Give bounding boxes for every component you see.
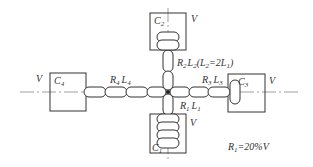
core-c2-coil	[157, 32, 179, 50]
voltage-label-c3: V	[269, 75, 277, 86]
pipe-network-diagram: V C4 C2 V C3 V C1 V R4L4 R3L3 R2L2(L2=2L…	[0, 0, 313, 167]
branch-4-coil	[84, 87, 166, 97]
voltage-label-c2: V	[191, 13, 199, 24]
branch-1-coil	[163, 94, 173, 115]
branch-label-r4l4: R4L4	[109, 74, 131, 87]
core-label-c2: C2	[154, 15, 165, 28]
core-c1-coil	[157, 114, 179, 148]
branch-3-coil	[170, 87, 230, 97]
branch-label-r3l3: R3L3	[201, 74, 223, 87]
core-label-c4: C4	[54, 75, 65, 88]
voltage-label-c4: V	[36, 73, 44, 84]
formula-r1: R1=20%V	[227, 141, 271, 154]
branch-label-r2l2: R2L2(L2=2L1)	[176, 57, 234, 70]
branch-2-coil	[163, 50, 173, 90]
branch-label-r1l1: R1L1	[179, 100, 201, 113]
junction-node	[166, 90, 170, 94]
voltage-label-c1: V	[190, 117, 198, 128]
